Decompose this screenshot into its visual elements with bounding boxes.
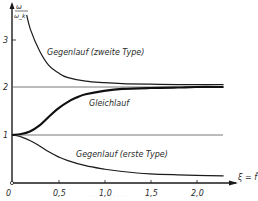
- x-tick-label-0: 0: [6, 189, 11, 198]
- figure-caption: · · · · · · · · · ·: [90, 192, 258, 199]
- x-axis-label: ξ = f̄: [237, 172, 258, 182]
- x-tick-label-0-5: 0,5: [53, 189, 66, 198]
- y-tick-label-2: 2: [3, 83, 8, 92]
- annotation-gegenlauf-zweite-type: Gegenlauf (zweite Type): [47, 48, 144, 57]
- origin-marker: [10, 181, 13, 184]
- chart: 0 0,5 1,0 1,5 2,0 1 2 3 ω ω_k ξ = f̄ Geg…: [0, 0, 258, 201]
- y-axis-label-numerator: ω: [16, 3, 22, 11]
- x-axis-arrow-icon: [229, 181, 238, 186]
- y-tick-label-1: 1: [3, 131, 8, 140]
- y-tick-label-3: 3: [3, 36, 8, 45]
- y-axis-label-denominator: ω_k: [14, 12, 26, 20]
- annotation-gleichlauf: Gleichlauf: [89, 99, 130, 108]
- y-axis-arrow-icon: [10, 2, 15, 9]
- annotation-gegenlauf-erste-type: Gegenlauf (erste Type): [76, 150, 168, 159]
- series-gleichlauf: [12, 87, 224, 135]
